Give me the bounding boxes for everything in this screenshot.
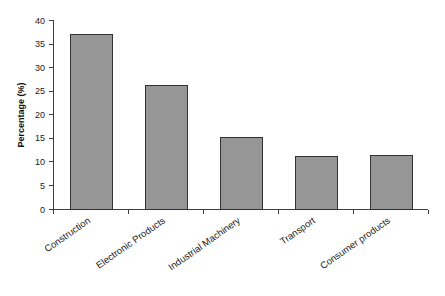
y-tick-label-25: 25 (35, 86, 45, 96)
bar-chart: 40 35 30 25 20 15 10 5 0 Percentage (%) (0, 0, 445, 296)
chart-canvas: 40 35 30 25 20 15 10 5 0 Percentage (%) (0, 0, 445, 296)
y-tick-label-35: 35 (35, 39, 45, 49)
y-tick-label-0: 0 (40, 205, 45, 215)
bar-electronic-products[interactable] (145, 85, 187, 209)
y-tick-label-5: 5 (40, 181, 45, 191)
y-tick-label-30: 30 (35, 63, 45, 73)
bar-construction[interactable] (70, 34, 112, 209)
bar-industrial-machinery[interactable] (220, 137, 262, 209)
y-tick-label-15: 15 (35, 133, 45, 143)
y-axis-title: Percentage (%) (16, 82, 26, 147)
bar-transport[interactable] (295, 156, 337, 209)
y-tick-label-20: 20 (35, 110, 45, 120)
bar-consumer-products[interactable] (370, 155, 412, 209)
y-tick-label-40: 40 (35, 16, 45, 26)
y-tick-label-10: 10 (35, 157, 45, 167)
